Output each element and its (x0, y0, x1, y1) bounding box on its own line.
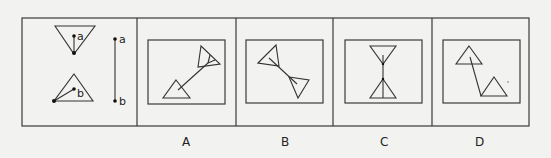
inverted-triangle (55, 26, 95, 54)
option-a[interactable] (148, 40, 225, 104)
point-b-label: b (77, 87, 84, 100)
option-c-label: C (380, 135, 388, 149)
option-a-label: A (182, 135, 191, 149)
puzzle-figure: a b a b (0, 0, 551, 158)
option-d-label: D (475, 135, 484, 149)
option-d-box (443, 40, 520, 103)
segment-b-label: b (119, 95, 126, 108)
option-a-box (148, 40, 225, 104)
point-a-label: a (77, 30, 84, 43)
option-c[interactable] (345, 40, 422, 103)
option-b-box (246, 40, 323, 103)
outer-frame (22, 18, 529, 126)
option-b[interactable] (246, 40, 323, 103)
reference-panel: a b a b (52, 26, 126, 108)
segment-a-label: a (119, 33, 126, 46)
option-d[interactable] (443, 40, 520, 103)
option-b-label: B (281, 135, 289, 149)
